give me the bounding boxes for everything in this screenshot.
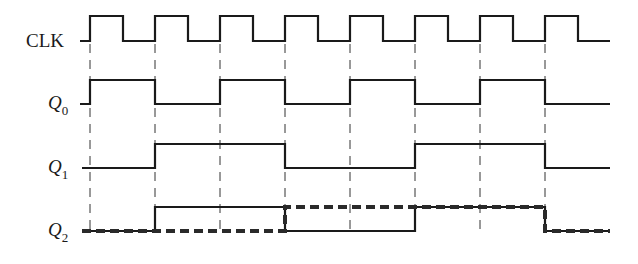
q2-solid-waveform [82,207,610,231]
clk-waveform [80,16,610,41]
label-q1: Q1 [48,156,68,182]
q1-waveform [82,144,610,168]
label-clk: CLK [26,30,64,51]
label-q2: Q2 [48,219,68,245]
timing-diagram: CLK Q0 Q1 Q2 [0,0,638,264]
label-q0: Q0 [48,92,68,118]
q0-waveform [80,80,610,104]
q2-dashed-waveform [82,207,610,231]
